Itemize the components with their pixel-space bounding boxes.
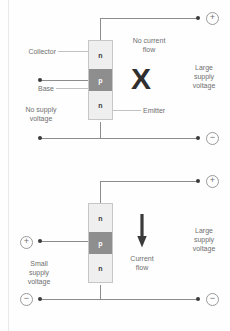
terminal-negative-bottom-on-label: − <box>207 294 218 303</box>
label-current-flow: Current flow <box>113 254 171 272</box>
layer-collector-n-on: n <box>89 204 112 232</box>
transistor-diagram: + − n p n Collector Base Emitter No cur <box>0 0 230 331</box>
node-dot-base-left <box>38 78 42 82</box>
node-dot-bottom-right-on <box>196 297 200 301</box>
label-no-supply-voltage: No supply voltage <box>10 105 72 123</box>
label-large-supply-voltage-top: Large supply voltage <box>182 63 226 90</box>
layer-emitter-n: n <box>89 91 112 119</box>
terminal-negative-bottom-left-label: − <box>21 294 32 303</box>
wire-base-left-on <box>40 241 88 242</box>
terminal-negative-bottom: − <box>206 132 219 145</box>
label-emitter: Emitter <box>143 106 183 115</box>
no-current-x-icon: X <box>131 64 151 94</box>
terminal-positive-top: + <box>206 12 219 25</box>
layer-collector-n: n <box>89 41 112 69</box>
layer-base-p: p <box>89 69 112 91</box>
terminal-positive-base: + <box>20 236 33 249</box>
label-no-current-flow: No current flow <box>120 36 178 54</box>
node-dot-top-right <box>196 16 200 20</box>
terminal-negative-bottom-label: − <box>207 133 218 142</box>
wire-top-collector <box>100 18 198 19</box>
panel-on-state: + − − + n p n Current flow Small <box>0 166 230 331</box>
wire-bottom-emitter <box>40 138 198 139</box>
current-flow-arrow-icon <box>137 214 147 248</box>
node-dot-bottom-left <box>38 136 42 140</box>
leader-base <box>56 88 88 89</box>
label-collector: Collector <box>14 47 56 56</box>
terminal-negative-bottom-left: − <box>20 293 33 306</box>
node-dot-base-left-on <box>38 239 42 243</box>
node-dot-top-right-on <box>196 179 200 183</box>
label-base: Base <box>20 84 54 93</box>
label-large-supply-voltage-bottom: Large supply voltage <box>182 226 226 253</box>
leader-emitter <box>113 110 141 111</box>
terminal-positive-top-on: + <box>206 175 219 188</box>
terminal-positive-base-label: + <box>21 237 32 246</box>
wire-emitter-drop <box>100 122 101 138</box>
terminal-positive-top-on-label: + <box>207 176 218 185</box>
layer-base-p-on: p <box>89 232 112 254</box>
terminal-positive-top-label: + <box>207 13 218 22</box>
label-small-supply-voltage: Small supply voltage <box>10 259 68 286</box>
wire-top-collector-on <box>100 181 198 182</box>
node-dot-bottom-left-on <box>38 297 42 301</box>
terminal-negative-bottom-on: − <box>206 293 219 306</box>
wire-collector-drop <box>100 18 101 40</box>
node-dot-bottom-right <box>196 136 200 140</box>
transistor-body-on: n p n <box>88 203 113 283</box>
panel-off-state: + − n p n Collector Base Emitter No cur <box>0 0 230 166</box>
transistor-body-off: n p n <box>88 40 113 120</box>
layer-emitter-n-on: n <box>89 254 112 282</box>
leader-collector <box>58 51 88 52</box>
wire-bottom-emitter-on <box>40 299 198 300</box>
wire-emitter-drop-on <box>100 285 101 299</box>
wire-collector-drop-on <box>100 181 101 203</box>
wire-base-left <box>40 80 88 81</box>
